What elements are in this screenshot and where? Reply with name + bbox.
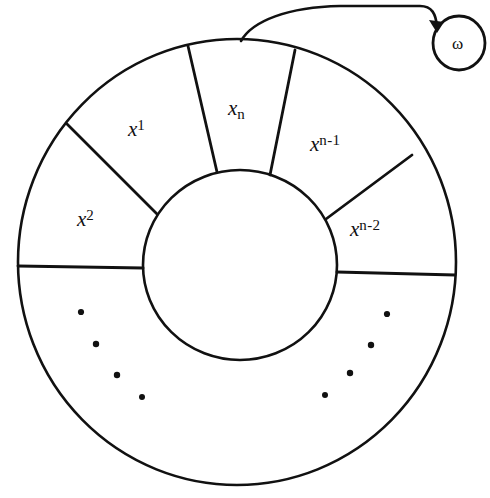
sector-label-x-2: x2 [77,208,94,230]
ellipsis-dot [78,309,84,315]
sector-exponent-x-1: 1 [137,117,145,133]
sector-label-x-1: x1 [128,118,145,140]
sector-base-x-n-1: x [310,132,319,156]
spoke-top-right-77 [270,50,295,175]
ellipsis-dot [347,370,353,376]
tape-diagram-svg [0,0,490,498]
sector-base-x-2: x [77,207,86,231]
sector-base-x-n-2: x [350,217,359,241]
pointer-arrow-head-icon [429,20,444,33]
ellipsis-dot [139,394,145,400]
sector-exponent-x-n-1: n-1 [319,132,340,148]
spoke-upper-right-45 [326,155,412,219]
ellipsis-dots-right [322,311,390,398]
ellipsis-dots-left [78,309,145,400]
ellipsis-dot [384,311,390,317]
sector-label-x-n: xn [228,98,245,122]
inner-circle [143,170,337,360]
ellipsis-dot [93,341,99,347]
sector-subscript-x-n: n [237,106,245,122]
sector-label-x-n-2: xn-2 [350,218,380,240]
spoke-top-left-103 [188,46,217,172]
ellipsis-dot [322,392,328,398]
sector-base-x-1: x [128,117,137,141]
ellipsis-dot [114,372,120,378]
pointer-arrow-curve [241,6,437,41]
spoke-right-0 [337,272,455,275]
figure-canvas: x1 xn xn-1 x2 xn-2 ω [0,0,490,498]
sector-base-x-n: x [228,96,237,120]
sector-exponent-x-n-2: n-2 [359,217,380,233]
spoke-left-180 [18,266,143,268]
omega-symbol: ω [452,34,463,54]
sector-exponent-x-2: 2 [86,207,94,223]
ellipsis-dot [368,342,374,348]
sector-label-x-n-1: xn-1 [310,133,340,155]
